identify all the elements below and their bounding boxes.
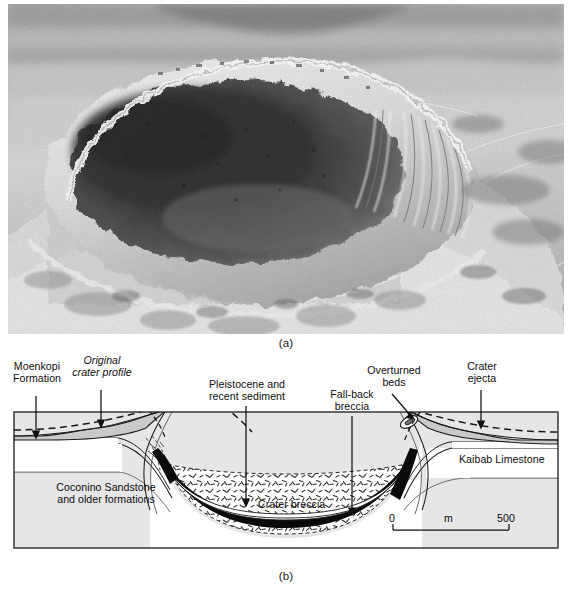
label-crater-breccia: Crater breccia xyxy=(258,498,325,510)
label-kaibab-limestone: Kaibab Limestone xyxy=(459,453,545,465)
aerial-photograph xyxy=(8,4,564,334)
panel-caption-a: (a) xyxy=(0,337,572,349)
label-crater-ejecta: Crater ejecta xyxy=(452,360,512,385)
label-fall-back-breccia: Fall-back breccia xyxy=(314,388,390,413)
scale-bar-min: 0 xyxy=(389,512,395,524)
panel-b-cross-section: Moenkopi Formation Original crater profi… xyxy=(0,352,572,564)
panel-a-aerial-photo xyxy=(8,4,564,334)
label-coconino-sandstone: Coconino Sandstone and older formations xyxy=(22,481,190,506)
scale-bar-unit: m xyxy=(444,512,453,524)
label-pleistocene-sediment: Pleistocene and recent sediment xyxy=(192,378,302,403)
label-moenkopi-formation: Moenkopi Formation xyxy=(4,360,70,385)
scale-bar-max: 500 xyxy=(497,512,515,524)
label-overturned-beds: Overturned beds xyxy=(352,364,436,389)
label-original-crater-profile: Original crater profile xyxy=(62,354,142,379)
figure-meteor-crater: (a) xyxy=(0,0,572,593)
panel-caption-b: (b) xyxy=(0,570,572,582)
